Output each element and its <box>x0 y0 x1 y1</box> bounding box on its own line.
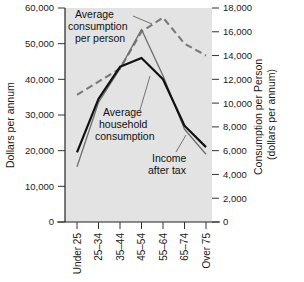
left-tick-label: 60,000 <box>25 2 54 13</box>
x-category-label: 65–74 <box>179 233 190 261</box>
x-category-label: Over 75 <box>201 233 212 269</box>
right-axis-tick-labels: 02,0004,0006,0008,00010,00012,00014,0001… <box>223 2 252 227</box>
x-category-label: 55–64 <box>158 233 169 261</box>
annotation-ahc-line1: Average <box>103 106 142 118</box>
right-axis-title-line1: Consumption per Person <box>252 59 264 175</box>
left-axis-tick-labels: 010,00020,00030,00040,00050,00060,000 <box>25 2 54 227</box>
annotation-iat-line1: Income <box>152 152 187 164</box>
left-axis-title: Dollars per annum <box>4 82 16 168</box>
x-axis-ticks <box>77 222 206 229</box>
left-tick-label: 10,000 <box>25 181 54 192</box>
x-category-label: 35–44 <box>115 233 126 261</box>
right-tick-label: 10,000 <box>223 98 252 109</box>
annotation-acp-line2: consumption <box>68 20 128 32</box>
annotation-ahc-line2: household <box>99 118 148 130</box>
x-category-label: 45–54 <box>136 233 147 261</box>
right-tick-label: 18,000 <box>223 2 252 13</box>
right-tick-label: 2,000 <box>223 193 247 204</box>
right-tick-label: 8,000 <box>223 121 247 132</box>
right-tick-label: 6,000 <box>223 145 247 156</box>
left-axis-ticks <box>58 8 65 222</box>
left-tick-label: 30,000 <box>25 109 54 120</box>
left-tick-label: 50,000 <box>25 38 54 49</box>
x-category-label: Under 25 <box>72 233 83 275</box>
age-income-consumption-line-chart: 010,00020,00030,00040,00050,00060,000 02… <box>0 0 304 282</box>
left-tick-label: 20,000 <box>25 145 54 156</box>
x-axis-category-labels: Under 2525–3435–4445–5455–6465–74Over 75 <box>72 233 212 275</box>
left-tick-label: 0 <box>49 216 54 227</box>
annotation-ahc-line3: consumption <box>95 130 155 142</box>
right-axis-title-line2: (dollars per annum) <box>265 69 277 160</box>
chart-container: 010,00020,00030,00040,00050,00060,000 02… <box>0 0 304 282</box>
annotation-iat-line2: after tax <box>148 164 187 176</box>
annotation-acp-line1: Average <box>75 8 114 20</box>
right-tick-label: 12,000 <box>223 74 252 85</box>
annotation-acp-line3: per person <box>75 32 125 44</box>
right-axis-ticks <box>212 8 219 222</box>
left-tick-label: 40,000 <box>25 74 54 85</box>
right-tick-label: 4,000 <box>223 169 247 180</box>
right-tick-label: 14,000 <box>223 50 252 61</box>
right-tick-label: 0 <box>223 216 228 227</box>
x-category-label: 25–34 <box>93 233 104 261</box>
right-tick-label: 16,000 <box>223 26 252 37</box>
